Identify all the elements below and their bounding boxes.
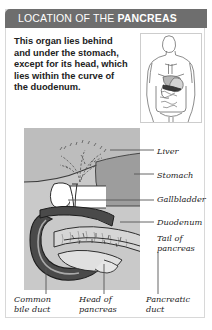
pancreas-illustration-panel bbox=[24, 128, 140, 290]
page-title: LOCATION OF THE PANCREAS bbox=[18, 12, 177, 24]
figure-page: LOCATION OF THE PANCREAS This organ lies… bbox=[0, 0, 212, 330]
label-pancreatic-duct: Pancreatic duct bbox=[146, 295, 190, 314]
label-liver: Liver bbox=[157, 147, 178, 157]
label-tail-of-pancreas: Tail of pancreas bbox=[157, 234, 195, 253]
page-title-bold: PANCREAS bbox=[117, 12, 176, 24]
header-bar: LOCATION OF THE PANCREAS bbox=[5, 9, 207, 28]
human-torso-icon bbox=[141, 34, 201, 122]
label-duodenum: Duodenum bbox=[157, 218, 202, 228]
gallbladder-shape bbox=[50, 183, 71, 208]
duodenum-superior-part bbox=[40, 206, 114, 226]
page-title-normal: LOCATION OF THE bbox=[18, 12, 117, 24]
pancreas-anatomy-diagram bbox=[24, 128, 140, 290]
label-common-bile-duct: Common bile duct bbox=[14, 295, 51, 314]
intro-text: This organ lies behind and under the sto… bbox=[14, 36, 130, 94]
body-figure-box bbox=[140, 33, 202, 123]
label-stomach: Stomach bbox=[157, 171, 193, 181]
label-head-of-pancreas: Head of pancreas bbox=[79, 295, 117, 314]
label-gallbladder: Gallbladder bbox=[157, 195, 206, 205]
